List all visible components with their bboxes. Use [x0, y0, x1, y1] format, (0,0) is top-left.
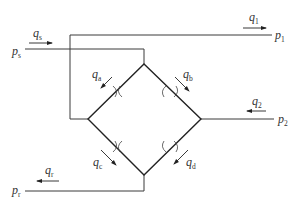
orifices: [113, 86, 178, 152]
line-pr: [25, 175, 144, 191]
labels: ps p1 p2 pr qs q1 q2 qr qa qb qc qd: [11, 10, 288, 199]
label-qs: qs: [33, 26, 42, 42]
pipework: [25, 35, 274, 191]
label-qd: qd: [186, 155, 196, 171]
label-qb: qb: [183, 67, 193, 83]
label-qa: qa: [92, 67, 102, 83]
label-ps: ps: [11, 44, 21, 60]
orifice-b-icon: [162, 86, 177, 97]
label-p1: p1: [274, 28, 285, 44]
label-q1: q1: [249, 10, 259, 26]
arrow-qa-icon: [101, 77, 112, 88]
label-qr: qr: [45, 163, 54, 179]
line-ps: [25, 49, 144, 64]
arrow-qc-icon: [101, 150, 116, 165]
bridge-circuit-diagram: ps p1 p2 pr qs q1 q2 qr qa qb qc qd: [0, 0, 297, 211]
flow-arrows: [29, 28, 266, 181]
label-pr: pr: [11, 183, 21, 199]
label-q2: q2: [252, 94, 262, 110]
label-qc: qc: [93, 155, 103, 171]
label-p2: p2: [277, 112, 288, 128]
orifice-c-icon: [113, 141, 122, 152]
